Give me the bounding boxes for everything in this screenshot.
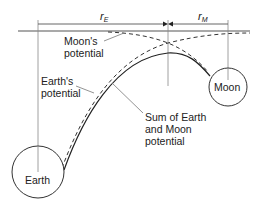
r-e-label: rE (100, 10, 109, 23)
r-e-arrowhead (163, 22, 168, 27)
moon-potential-curve (108, 32, 208, 72)
moon-potential-leader (104, 33, 124, 41)
earth-potential-label: Earth's potential (41, 75, 81, 99)
r-m-label: rM (198, 10, 208, 23)
r-m-arrowhead (168, 22, 173, 27)
sum-potential-leader (112, 83, 143, 113)
potential-diagram: rE rM Earth Moon Moon's potential Earth'… (0, 0, 256, 211)
earth-label: Earth (25, 174, 50, 186)
moon-label: Moon (214, 81, 240, 93)
sum-potential-label: Sum of Earth and Moon potential (145, 111, 209, 147)
moon-potential-label: Moon's potential (64, 35, 104, 59)
